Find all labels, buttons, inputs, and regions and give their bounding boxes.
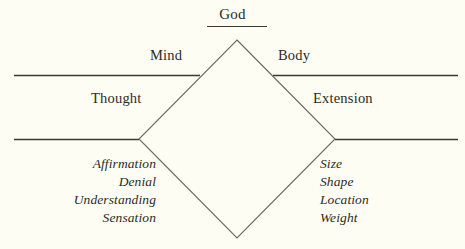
label-mind: Mind (150, 47, 182, 64)
apex-label-god: God (0, 6, 465, 24)
label-extension: Extension (313, 90, 373, 107)
mode-item: Weight (320, 209, 460, 227)
mode-list-mind: Affirmation Denial Understanding Sensati… (10, 155, 156, 227)
central-diamond (139, 40, 335, 238)
mode-item: Affirmation (10, 155, 156, 173)
label-thought: Thought (91, 90, 142, 107)
substance-diagram: God Mind Body Thought Extension Affirmat… (0, 0, 465, 249)
mode-item: Location (320, 191, 460, 209)
apex-underline (207, 26, 267, 27)
mode-item: Size (320, 155, 460, 173)
mode-item: Sensation (10, 209, 156, 227)
mode-item: Shape (320, 173, 460, 191)
mode-list-body: Size Shape Location Weight (320, 155, 460, 227)
label-body: Body (278, 47, 310, 64)
mode-item: Denial (10, 173, 156, 191)
mode-item: Understanding (10, 191, 156, 209)
